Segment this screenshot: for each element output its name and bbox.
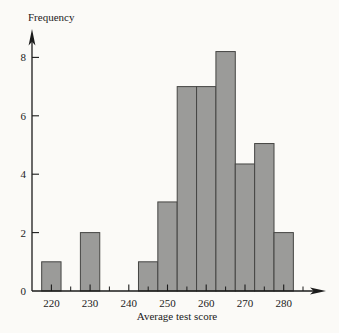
x-tick-label: 240: [121, 297, 138, 309]
y-tick-label: 2: [21, 227, 27, 239]
y-tick-label: 8: [21, 51, 27, 63]
x-tick-label: 280: [275, 297, 292, 309]
x-tick-label: 230: [82, 297, 99, 309]
histogram-figure: 02468220230240250260270280 Frequency Ave…: [0, 0, 339, 333]
x-axis-title: Average test score: [137, 310, 218, 322]
histogram-chart: 02468220230240250260270280 Frequency Ave…: [0, 0, 339, 333]
histogram-bar: [274, 233, 293, 291]
x-tick-label: 270: [237, 297, 254, 309]
histogram-bar: [197, 87, 216, 291]
bars-group: [42, 52, 294, 291]
histogram-bar: [216, 52, 235, 291]
histogram-bar: [80, 233, 99, 291]
x-tick-label: 260: [198, 297, 215, 309]
y-tick-label: 6: [21, 110, 27, 122]
y-axis-title: Frequency: [28, 11, 75, 23]
y-tick-label: 0: [21, 285, 27, 297]
y-tick-label: 4: [21, 168, 27, 180]
histogram-bar: [177, 87, 196, 291]
histogram-bar: [158, 202, 177, 291]
histogram-bar: [255, 144, 274, 291]
x-tick-label: 250: [159, 297, 176, 309]
histogram-bar: [235, 164, 254, 291]
x-tick-label: 220: [43, 297, 60, 309]
